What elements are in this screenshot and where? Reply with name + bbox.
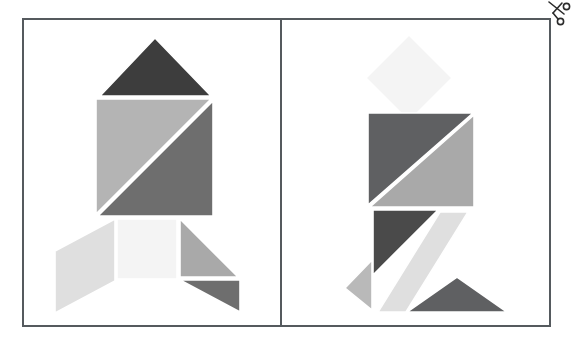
tangram-panel-rocket[interactable]: [0, 0, 281, 338]
scissors-icon[interactable]: [546, 1, 574, 27]
worksheet-page: [0, 0, 575, 338]
tangram-panel-person[interactable]: [281, 0, 575, 338]
